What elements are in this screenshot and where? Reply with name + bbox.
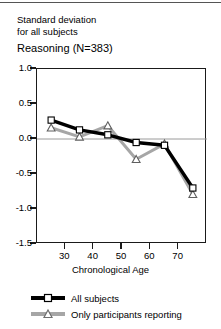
y-tick-label: -1.5 [0, 238, 32, 248]
legend-item-all-subjects: All subjects [30, 290, 220, 306]
data-point-marker [48, 117, 54, 123]
figure-caption: Standard deviation for all subjects [17, 14, 207, 37]
y-tick-label: 0.0 [0, 133, 32, 143]
series-line-all-subjects [51, 120, 193, 188]
data-point-marker [105, 132, 111, 138]
plot-area [36, 68, 206, 243]
chart-canvas [37, 69, 207, 244]
data-point-marker [190, 185, 196, 191]
figure-panel: Standard deviation for all subjects Reas… [0, 0, 221, 329]
page-title: Reasoning (N=383) [17, 42, 113, 55]
legend-item-only-participants: Only participants reporting [30, 306, 220, 322]
caption-line-1: Standard deviation [17, 14, 207, 26]
x-tick-label: 40 [80, 251, 106, 261]
legend-swatch-triangle-icon [30, 308, 66, 320]
x-tick-label: 50 [108, 251, 134, 261]
legend-label-only-participants: Only participants reporting [71, 309, 182, 320]
x-tick-label: 60 [136, 251, 162, 261]
data-point-marker [133, 139, 139, 145]
y-tick-label: -1.0 [0, 203, 32, 213]
x-axis-title: Chronological Age [0, 264, 221, 275]
series-line-only-participants [51, 126, 193, 195]
y-tick-label: 0.5 [0, 98, 32, 108]
chart-legend: All subjects Only participants reporting [30, 290, 220, 322]
data-point-marker [76, 127, 82, 133]
legend-swatch-square-icon [30, 292, 66, 304]
y-tick-label: 1.0 [0, 63, 32, 73]
x-tick-label: 30 [51, 251, 77, 261]
legend-label-all-subjects: All subjects [71, 293, 119, 304]
top-divider [0, 2, 221, 3]
data-point-marker [161, 142, 167, 148]
caption-line-2: for all subjects [17, 26, 207, 38]
x-tick-label: 70 [165, 251, 191, 261]
y-tick-label: -0.5 [0, 168, 32, 178]
